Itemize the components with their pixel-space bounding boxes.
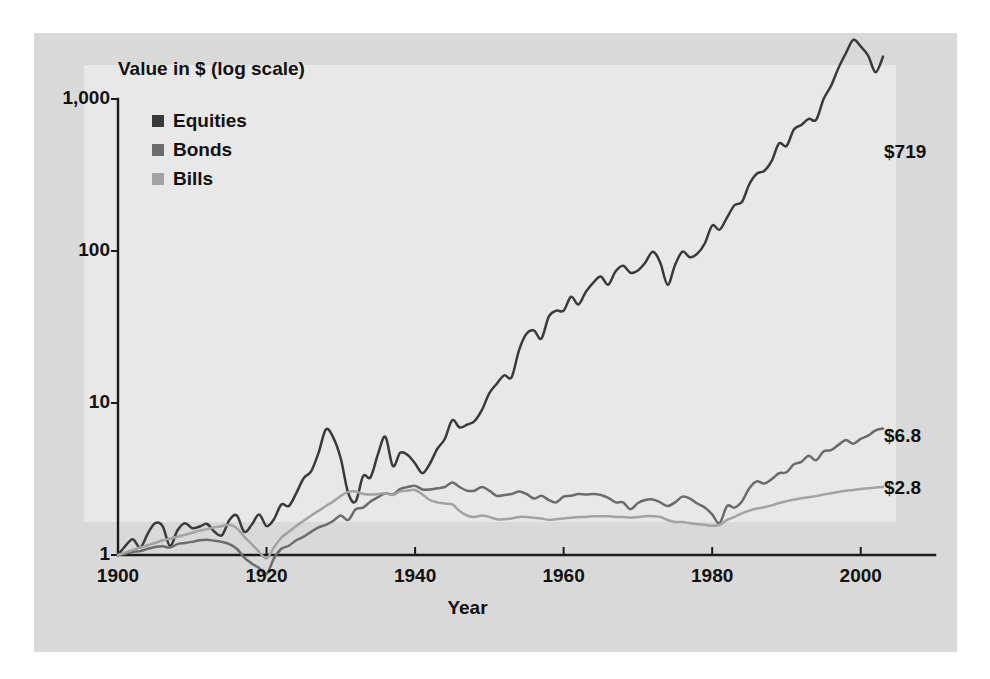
legend-item-equities: Equities	[152, 108, 247, 133]
legend-label-bonds: Bonds	[173, 140, 232, 159]
series-line-bonds	[118, 428, 883, 574]
end-label-equities: $719	[884, 141, 926, 163]
x-tick-label: 1920	[222, 565, 312, 587]
legend-label-equities: Equities	[173, 111, 247, 130]
y-axis-title: Value in $ (log scale)	[118, 58, 305, 80]
series-line-bills	[118, 487, 883, 558]
y-tick-label: 1,000	[30, 87, 110, 109]
legend-swatch-bonds	[152, 144, 164, 156]
legend-swatch-equities	[152, 115, 164, 127]
x-tick-label: 1940	[370, 565, 460, 587]
x-tick-label: 1960	[519, 565, 609, 587]
chart-legend: Equities Bonds Bills	[152, 108, 247, 195]
legend-swatch-bills	[152, 173, 164, 185]
end-label-bonds: $6.8	[884, 425, 921, 447]
legend-item-bills: Bills	[152, 166, 247, 191]
legend-label-bills: Bills	[173, 169, 213, 188]
y-tick-label: 10	[30, 391, 110, 413]
x-axis-title: Year	[0, 597, 935, 619]
x-tick-label: 2000	[816, 565, 906, 587]
chart-figure: Value in $ (log scale) Year Equities Bon…	[0, 0, 990, 679]
x-tick-label: 1900	[73, 565, 163, 587]
end-label-bills: $2.8	[884, 477, 921, 499]
legend-item-bonds: Bonds	[152, 137, 247, 162]
y-tick-label: 100	[30, 239, 110, 261]
y-tick-label: 1	[30, 543, 110, 565]
x-tick-label: 1980	[667, 565, 757, 587]
